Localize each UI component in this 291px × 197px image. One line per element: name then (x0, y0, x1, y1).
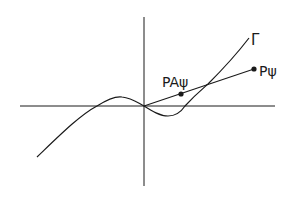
point-pa-psi (178, 91, 183, 96)
projection-line (144, 69, 254, 106)
curve-label-gamma: Γ (251, 31, 260, 49)
label-p-psi: Pψ (259, 63, 277, 79)
diagram-canvas: Γ Pψ PAψ (0, 0, 291, 197)
label-pa-psi: PAψ (162, 74, 188, 90)
curve-gamma (37, 38, 249, 157)
point-p-psi (251, 66, 256, 71)
